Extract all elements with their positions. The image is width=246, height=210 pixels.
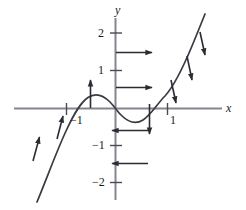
tick-label-y-minus1: −1	[92, 139, 105, 151]
tangent-arrows-right	[171, 32, 205, 103]
tick-label-y-1: 1	[98, 64, 104, 76]
y-axis-label: y	[115, 4, 120, 16]
arrow-tangent-left-outer	[33, 137, 40, 161]
tick-label-y-minus2: −2	[92, 176, 105, 188]
plot-canvas	[0, 0, 246, 210]
tick-label-y-2: 2	[98, 27, 104, 39]
axes-group	[14, 18, 222, 200]
slope-field-figure: x y 2 1 −1 −2 −1 1	[0, 0, 246, 210]
tick-label-x-minus1: −1	[70, 114, 83, 126]
arrow-tangent-left-inner	[57, 116, 63, 139]
horizontal-arrows-below	[112, 131, 148, 164]
tangent-arrows-left	[33, 116, 63, 161]
arrow-tangent-right-outer	[200, 32, 205, 55]
x-axis-label: x	[226, 102, 231, 114]
arrow-tangent-right-mid	[187, 56, 192, 80]
tick-label-x-1: 1	[170, 114, 176, 126]
